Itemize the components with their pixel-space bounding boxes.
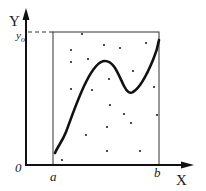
random-point xyxy=(145,42,147,44)
function-curve xyxy=(55,40,159,153)
random-point xyxy=(106,150,108,152)
random-point xyxy=(87,58,89,60)
random-point xyxy=(139,150,141,152)
sampling-rectangle xyxy=(53,32,159,165)
random-point xyxy=(123,113,125,115)
random-point xyxy=(81,33,83,35)
random-point xyxy=(70,88,72,90)
random-point xyxy=(61,159,63,161)
random-point xyxy=(109,104,111,106)
random-point xyxy=(85,134,87,136)
random-point xyxy=(91,89,93,91)
y-axis-arrow-icon xyxy=(23,8,30,20)
random-point xyxy=(132,70,134,72)
random-point xyxy=(70,61,72,63)
monte-carlo-figure: Y yo 0 a b X xyxy=(0,0,206,191)
random-points xyxy=(61,33,158,161)
random-point xyxy=(153,86,155,88)
y0-label-sub: o xyxy=(21,35,25,44)
random-point xyxy=(103,44,105,46)
random-point xyxy=(156,114,158,116)
diagram-canvas xyxy=(0,0,206,191)
random-point xyxy=(119,47,121,49)
random-point xyxy=(130,122,132,124)
random-point xyxy=(70,49,72,51)
a-label: a xyxy=(50,170,57,183)
random-point xyxy=(106,126,108,128)
x-axis-label: X xyxy=(176,173,187,188)
b-label: b xyxy=(154,166,161,179)
random-point xyxy=(108,78,110,80)
y-axis-label: Y xyxy=(9,14,20,29)
y0-label: yo xyxy=(16,30,25,44)
x-axis-arrow-icon xyxy=(181,162,194,169)
origin-label: 0 xyxy=(15,161,22,174)
